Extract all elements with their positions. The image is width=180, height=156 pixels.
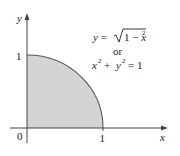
x-axis-arrow-icon — [161, 126, 168, 131]
eq3-y: y — [115, 59, 121, 71]
or-label: or — [113, 45, 123, 57]
y-axis-arrow-icon — [25, 13, 30, 20]
eq1-equals: = — [98, 31, 107, 43]
eq3-x-exp: 2 — [98, 57, 102, 65]
quarter-circle-diagram: y x 0 1 1 y = 1 − x 2 or x 2 + y 2 = 1 — [0, 0, 180, 156]
equation-circle-form: x 2 + y 2 = 1 — [91, 57, 142, 71]
eq3-plus: + — [104, 59, 110, 71]
eq3-y-exp: 2 — [122, 57, 126, 65]
eq3-equals-one: = 1 — [128, 59, 142, 71]
y-axis-label: y — [16, 12, 22, 24]
svg-text:y =: y = — [92, 31, 107, 43]
x-tick-label: 1 — [100, 132, 106, 144]
origin-label: 0 — [17, 130, 23, 142]
eq1-exponent: 2 — [142, 29, 146, 37]
eq1-radicand-a: 1 − — [124, 31, 141, 43]
eq3-x: x — [91, 59, 97, 71]
equation-sqrt-form: y = 1 − x 2 — [92, 29, 146, 43]
x-axis-label: x — [159, 131, 165, 143]
y-tick-label: 1 — [16, 50, 22, 62]
